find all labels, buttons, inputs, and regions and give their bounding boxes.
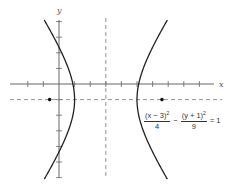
equals-one: = 1 — [210, 116, 221, 125]
fraction-x-term: (x − 3)2 4 — [144, 111, 170, 130]
x-term-denominator: 4 — [155, 122, 159, 131]
focus-dot — [48, 98, 52, 102]
dashed-guides — [10, 18, 222, 178]
y-term-denominator: 9 — [192, 122, 196, 131]
fraction-y-term: (y + 1)2 9 — [181, 111, 207, 130]
x-term-exponent: 2 — [166, 110, 169, 116]
axes — [10, 20, 214, 178]
hyperbola-diagram: x y (x − 3)2 4 − (y + 1)2 9 = 1 — [0, 0, 234, 190]
y-term-exponent: 2 — [203, 110, 206, 116]
focus-dot — [160, 98, 164, 102]
hyperbola-equation: (x − 3)2 4 − (y + 1)2 9 = 1 — [144, 111, 221, 130]
y-term-numerator: (y + 1) — [182, 111, 203, 120]
minus-sign: − — [173, 116, 177, 125]
coordinate-plane: x y — [0, 0, 234, 190]
x-axis-label: x — [219, 80, 224, 89]
x-term-numerator: (x − 3) — [145, 111, 166, 120]
y-axis-label: y — [56, 6, 62, 15]
